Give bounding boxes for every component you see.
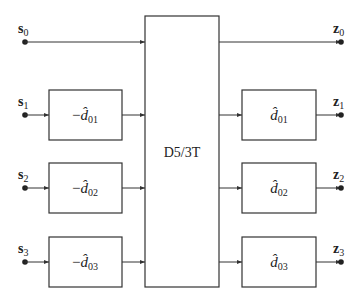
input-label-s0: s0	[18, 21, 28, 38]
input-label-s1: s1	[18, 94, 28, 111]
output-node-z1	[338, 112, 344, 118]
input-label-s3: s3	[18, 241, 28, 258]
output-node-z3	[338, 259, 344, 265]
input-label-s2: s2	[18, 167, 28, 184]
output-label-z0: z0	[333, 21, 344, 38]
block-diagram: D5/3T s0 z0 s1 −d̂01 d̂01 z1 s2 −d̂02 d̂…	[0, 0, 363, 303]
output-node-z2	[338, 185, 344, 191]
output-label-z2: z2	[333, 167, 344, 184]
output-label-z3: z3	[333, 241, 344, 258]
output-label-z1: z1	[333, 94, 344, 111]
d53t-label: D5/3T	[164, 145, 201, 160]
output-node-z0	[338, 39, 344, 45]
